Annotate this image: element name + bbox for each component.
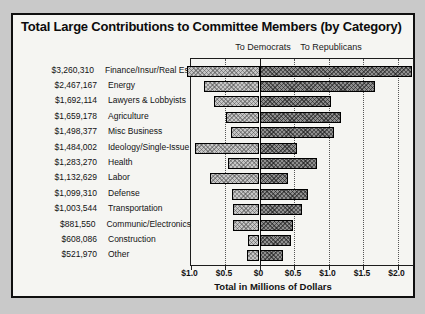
row-total-amount: $1,003,544 <box>33 203 97 214</box>
bar-democrats-energy <box>204 81 259 92</box>
row-label-defense: $1,099,310Defense <box>33 188 191 199</box>
row-category-name: Defense <box>108 188 140 199</box>
row-category-name: Construction <box>108 234 156 245</box>
row-category-name: Labor <box>108 172 130 183</box>
x-tick-label: $0.5 <box>276 268 310 278</box>
bar-democrats-health <box>228 158 259 169</box>
row-total-amount: $1,498,377 <box>33 126 97 137</box>
row-label-health: $1,283,270Health <box>33 157 191 168</box>
bar-democrats-finance-insur-real-est <box>187 66 259 77</box>
bar-republicans-misc-business <box>260 127 335 138</box>
row-total-amount: $881,550 <box>33 219 95 230</box>
row-label-lawyers-lobbyists: $1,692,114Lawyers & Lobbyists <box>33 95 191 106</box>
row-label-communic-electronics: $881,550Communic/Electronics <box>33 219 191 230</box>
x-tick-label: $1.5 <box>345 268 379 278</box>
bar-republicans-ideology-single-issue <box>260 143 298 154</box>
republicans-column-header: To Republicans <box>286 42 376 53</box>
bar-republicans-agriculture <box>260 112 341 123</box>
row-label-other: $521,970Other <box>33 249 191 260</box>
row-total-amount: $608,086 <box>33 234 97 245</box>
row-category-name: Misc Business <box>108 126 162 137</box>
gridline-2-0 <box>398 59 399 265</box>
chart-title: Total Large Contributions to Committee M… <box>21 19 409 34</box>
row-category-name: Health <box>108 157 133 168</box>
chart-panel: Total Large Contributions to Committee M… <box>11 13 415 298</box>
row-category-name: Agriculture <box>108 111 149 122</box>
row-label-construction: $608,086Construction <box>33 234 191 245</box>
row-category-name: Communic/Electronics <box>106 219 191 230</box>
row-total-amount: $1,484,002 <box>33 142 97 153</box>
x-tick-label: $2.0 <box>380 268 414 278</box>
bar-republicans-lawyers-lobbyists <box>260 96 331 107</box>
row-total-amount: $1,692,114 <box>33 95 97 106</box>
bar-republicans-communic-electronics <box>260 220 294 231</box>
row-total-amount: $2,467,167 <box>33 80 97 91</box>
bar-republicans-transportation <box>260 204 303 215</box>
bar-republicans-defense <box>260 189 308 200</box>
row-total-amount: $3,260,310 <box>33 65 94 76</box>
bar-democrats-agriculture <box>226 112 259 123</box>
row-total-amount: $1,659,178 <box>33 111 97 122</box>
row-label-energy: $2,467,167Energy <box>33 80 191 91</box>
row-total-amount: $1,132,629 <box>33 172 97 183</box>
bar-republicans-other <box>260 250 283 261</box>
bar-democrats-defense <box>232 189 260 200</box>
row-category-name: Transportation <box>108 203 163 214</box>
bar-democrats-other <box>247 250 259 261</box>
row-category-name: Lawyers & Lobbyists <box>108 95 186 106</box>
bar-democrats-transportation <box>233 204 259 215</box>
row-label-transportation: $1,003,544Transportation <box>33 203 191 214</box>
x-axis-title: Total in Millions of Dollars <box>173 281 373 292</box>
bar-republicans-health <box>260 158 317 169</box>
screenshot-root: { "title": "Total Large Contributions to… <box>0 0 425 314</box>
row-category-name: Energy <box>108 80 135 91</box>
bar-democrats-communic-electronics <box>233 220 260 231</box>
row-label-misc-business: $1,498,377Misc Business <box>33 126 191 137</box>
row-total-amount: $1,099,310 <box>33 188 97 199</box>
bar-republicans-energy <box>260 81 375 92</box>
plot-area <box>190 58 414 266</box>
bar-democrats-labor <box>210 173 260 184</box>
x-tick-label: $1.0 <box>311 268 345 278</box>
row-category-name: Other <box>108 249 129 260</box>
row-label-agriculture: $1,659,178Agriculture <box>33 111 191 122</box>
bar-republicans-finance-insur-real-est <box>260 66 412 77</box>
row-total-amount: $521,970 <box>33 249 97 260</box>
row-total-amount: $1,283,270 <box>33 157 97 168</box>
bar-democrats-construction <box>248 235 259 246</box>
row-category-name: Ideology/Single-Issue <box>108 142 189 153</box>
row-label-finance-insur-real-est: $3,260,310Finance/Insur/Real Est <box>33 65 191 76</box>
x-tick-label: $0.5 <box>207 268 241 278</box>
row-category-name: Finance/Insur/Real Est <box>105 65 191 76</box>
row-label-ideology-single-issue: $1,484,002Ideology/Single-Issue <box>33 142 191 153</box>
bar-democrats-misc-business <box>231 127 260 138</box>
bar-republicans-construction <box>260 235 291 246</box>
x-tick-label: $0 <box>242 268 276 278</box>
bar-republicans-labor <box>260 173 288 184</box>
bar-democrats-ideology-single-issue <box>195 143 259 154</box>
row-label-labor: $1,132,629Labor <box>33 172 191 183</box>
x-tick-label: $1.0 <box>173 268 207 278</box>
bar-democrats-lawyers-lobbyists <box>214 96 260 107</box>
